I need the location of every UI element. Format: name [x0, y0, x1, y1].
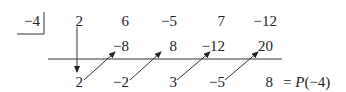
remainder-label: = P(−4) [283, 74, 330, 90]
product: −12 [185, 38, 225, 54]
function-argument: (−4) [304, 74, 330, 90]
equals-sign: = [283, 74, 291, 90]
product: 8 [137, 38, 177, 54]
product: −8 [89, 38, 129, 54]
coefficient: 2 [43, 13, 83, 29]
coefficient: 6 [89, 13, 129, 29]
product: 20 [233, 38, 273, 54]
result: −2 [89, 74, 129, 90]
coefficient: −12 [237, 13, 277, 29]
coefficient: −5 [137, 13, 177, 29]
remainder: 8 [233, 74, 273, 90]
coefficient: 7 [185, 13, 225, 29]
result: −5 [185, 74, 225, 90]
result: 3 [137, 74, 177, 90]
divisor: −4 [0, 13, 40, 29]
function-name: P [295, 74, 304, 90]
result: 2 [43, 74, 83, 90]
